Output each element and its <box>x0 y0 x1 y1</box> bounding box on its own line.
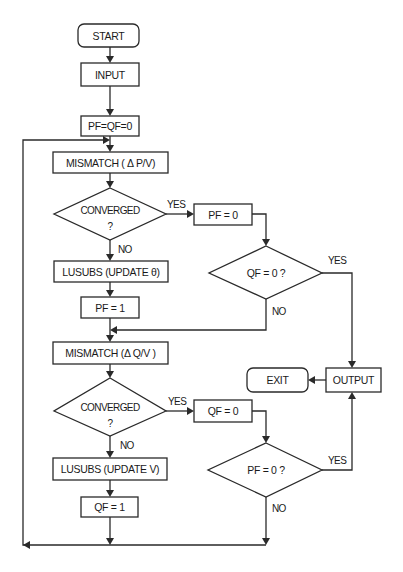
qf-one-label: QF = 1 <box>94 501 125 513</box>
exit-label: EXIT <box>266 374 289 386</box>
lusubs-v-label: LUSUBS (UPDATE V) <box>61 463 160 475</box>
node-input: INPUT <box>81 63 139 86</box>
node-exit: EXIT <box>247 368 308 392</box>
start-label: START <box>93 30 126 42</box>
node-qf-zero: QF = 0 <box>194 400 252 422</box>
output-label: OUTPUT <box>333 374 375 386</box>
pf-check-no-label: NO <box>272 503 287 514</box>
input-label: INPUT <box>95 69 126 81</box>
node-pf-one: PF = 1 <box>81 297 139 318</box>
converged-q-no-label: NO <box>120 440 135 451</box>
node-converged-p-decision: CONVERGED ? <box>54 188 166 240</box>
node-lusubs-theta: LUSUBS (UPDATE θ) <box>54 261 168 282</box>
init-flags-label: PF=QF=0 <box>88 120 132 132</box>
qf-check-label: QF = 0 ? <box>247 267 286 279</box>
node-mismatch-q: MISMATCH (Δ Q/V ) <box>53 342 168 364</box>
converged-p-no-label: NO <box>118 244 133 255</box>
node-lusubs-v: LUSUBS (UPDATE V) <box>53 458 167 480</box>
qf-check-no-label: NO <box>272 306 287 317</box>
pf-check-yes-label: YES <box>328 455 347 466</box>
node-pf-check-decision: PF = 0 ? <box>208 443 322 497</box>
converged-p-yes-label: YES <box>167 199 186 210</box>
qf-zero-label: QF = 0 <box>208 405 239 417</box>
converged-q-yes-label: YES <box>168 396 187 407</box>
node-output: OUTPUT <box>326 368 381 392</box>
converged-q-label: CONVERGED <box>80 402 139 413</box>
mismatch-q-label: MISMATCH (Δ Q/V ) <box>65 347 155 359</box>
node-pf-zero: PF = 0 <box>194 204 252 225</box>
lusubs-theta-label: LUSUBS (UPDATE θ) <box>62 266 159 278</box>
pf-zero-label: PF = 0 <box>208 209 238 221</box>
node-start: START <box>78 24 139 47</box>
node-qf-check-decision: QF = 0 ? <box>209 246 322 299</box>
mismatch-p-label: MISMATCH ( Δ P/V) <box>66 157 155 169</box>
node-init-flags: PF=QF=0 <box>81 116 139 136</box>
flowchart-canvas: START INPUT PF=QF=0 MISMATCH ( Δ P/V) CO… <box>0 0 403 572</box>
node-mismatch-p: MISMATCH ( Δ P/V) <box>53 152 168 173</box>
pf-one-label: PF = 1 <box>95 302 125 314</box>
qf-check-yes-label: YES <box>328 255 347 266</box>
converged-p-label: CONVERGED <box>80 205 139 216</box>
node-converged-q-decision: CONVERGED ? <box>54 378 166 436</box>
node-qf-one: QF = 1 <box>81 497 138 517</box>
pf-check-label: PF = 0 ? <box>247 464 285 476</box>
